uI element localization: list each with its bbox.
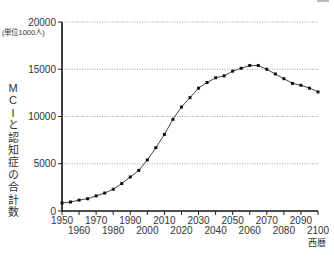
data-point bbox=[61, 201, 64, 204]
data-point bbox=[129, 175, 132, 178]
data-point bbox=[231, 70, 234, 73]
y-axis-label-char: 症 bbox=[6, 156, 20, 168]
y-axis-label: MCIと認知症の合計数 bbox=[6, 82, 20, 218]
y-tick-label: 10000 bbox=[28, 111, 56, 122]
data-point bbox=[95, 194, 98, 197]
x-tick-label: 2000 bbox=[136, 225, 159, 236]
y-axis-label-char: と bbox=[6, 119, 20, 131]
data-point bbox=[103, 192, 106, 195]
data-point bbox=[120, 182, 123, 185]
x-tick-label: 2040 bbox=[204, 225, 227, 236]
data-point bbox=[189, 96, 192, 99]
data-point bbox=[214, 76, 217, 79]
data-point bbox=[197, 87, 200, 90]
data-point bbox=[112, 188, 115, 191]
x-tick-label: 2020 bbox=[170, 225, 193, 236]
data-point bbox=[299, 84, 302, 87]
x-tick-label: 2100 bbox=[307, 225, 330, 236]
data-point bbox=[137, 169, 140, 172]
data-point bbox=[69, 201, 72, 204]
x-tick-label: 1960 bbox=[68, 225, 91, 236]
y-axis-label-char: 認 bbox=[6, 132, 20, 144]
y-axis-label-char: 合 bbox=[6, 181, 20, 193]
y-unit-label: (単位1000人) bbox=[2, 26, 45, 37]
line-chart: 0500010000150002000019501970199020102030… bbox=[0, 0, 334, 258]
y-axis-label-char: M bbox=[6, 82, 20, 94]
data-point bbox=[180, 106, 183, 109]
y-axis-label-char: C bbox=[6, 94, 20, 106]
data-point bbox=[308, 87, 311, 90]
data-point bbox=[317, 90, 320, 93]
data-point bbox=[257, 64, 260, 67]
x-tick-label: 2080 bbox=[273, 225, 296, 236]
y-tick-label: 15000 bbox=[28, 64, 56, 75]
data-point bbox=[274, 72, 277, 75]
x-tick-label: 1980 bbox=[102, 225, 125, 236]
y-axis-label-char: I bbox=[6, 107, 20, 119]
data-point bbox=[265, 68, 268, 71]
data-point bbox=[146, 158, 149, 161]
data-point bbox=[206, 81, 209, 84]
data-point bbox=[154, 146, 157, 149]
x-axis-label: 西暦 bbox=[308, 236, 326, 249]
data-point bbox=[78, 199, 81, 202]
x-tick-label: 2060 bbox=[239, 225, 262, 236]
data-point bbox=[86, 197, 89, 200]
y-axis-label-char: の bbox=[6, 169, 20, 181]
data-point bbox=[163, 133, 166, 136]
y-tick-label: 5000 bbox=[34, 158, 57, 169]
data-line bbox=[62, 66, 318, 204]
data-point bbox=[240, 67, 243, 70]
corner-mark bbox=[317, 0, 329, 2]
y-axis-label-char: 数 bbox=[6, 206, 20, 218]
y-axis-label-char: 計 bbox=[6, 194, 20, 206]
y-axis-label-char: 知 bbox=[6, 144, 20, 156]
data-point bbox=[248, 64, 251, 67]
data-point bbox=[171, 118, 174, 121]
data-point bbox=[223, 74, 226, 77]
data-point bbox=[282, 77, 285, 80]
data-point bbox=[291, 82, 294, 85]
